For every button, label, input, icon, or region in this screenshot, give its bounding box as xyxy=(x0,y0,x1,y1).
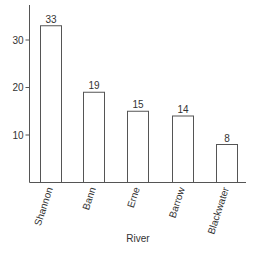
bar-rect xyxy=(217,145,238,183)
bar-value-label: 33 xyxy=(45,14,57,25)
y-tick-label: 20 xyxy=(12,82,24,93)
bar-chart: 102030 331915148 ShannonBannErneBarrowBl… xyxy=(0,0,254,254)
bar-rect xyxy=(128,111,149,182)
bar-blackwater: 8 xyxy=(217,133,238,183)
x-category-label: Shannon xyxy=(32,186,55,227)
bar-bann: 19 xyxy=(84,80,105,182)
bar-rect xyxy=(173,116,194,183)
bar-value-label: 14 xyxy=(177,104,189,115)
bar-value-label: 19 xyxy=(88,80,100,91)
x-category-label: Blackwater xyxy=(205,185,231,236)
y-tick-label: 30 xyxy=(12,35,24,46)
bar-erne: 15 xyxy=(128,99,149,182)
x-axis: ShannonBannErneBarrowBlackwater xyxy=(30,183,247,236)
y-tick-label: 10 xyxy=(12,130,24,141)
bar-value-label: 15 xyxy=(132,99,144,110)
bar-shannon: 33 xyxy=(41,14,62,183)
bar-rect xyxy=(84,92,105,182)
x-category-label: Barrow xyxy=(167,185,187,219)
x-category-label: Bann xyxy=(80,186,98,212)
x-axis-title: River xyxy=(126,233,150,244)
bar-value-label: 8 xyxy=(224,133,230,144)
x-category-label: Erne xyxy=(125,185,142,209)
y-axis: 102030 xyxy=(12,5,29,183)
bar-rect xyxy=(41,26,62,183)
bars: 331915148 xyxy=(41,14,238,183)
bar-barrow: 14 xyxy=(173,104,194,183)
